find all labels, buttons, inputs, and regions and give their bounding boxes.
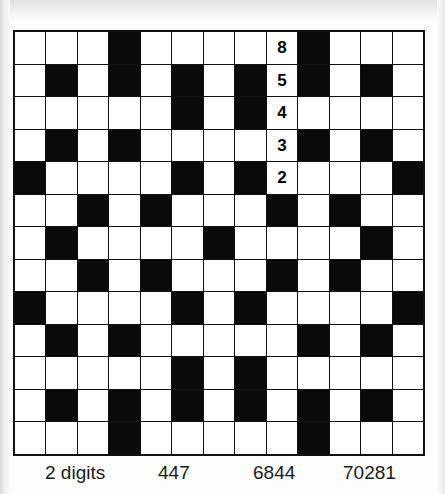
grid-cell[interactable] [15,130,45,162]
grid-cell[interactable] [235,325,265,357]
grid-cell[interactable] [78,32,108,64]
grid-cell[interactable] [109,292,139,324]
grid-cell[interactable] [46,97,76,129]
grid-cell[interactable] [330,292,360,324]
grid-cell[interactable] [330,390,360,422]
grid-cell[interactable] [15,390,45,422]
grid-cell[interactable] [172,260,202,292]
grid-cell[interactable] [141,162,171,194]
grid-cell[interactable]: 4 [267,97,297,129]
grid-cell[interactable] [109,162,139,194]
grid-cell[interactable] [267,227,297,259]
grid-cell[interactable] [109,195,139,227]
grid-cell[interactable] [330,32,360,64]
grid-cell[interactable] [204,130,234,162]
grid-cell[interactable] [393,195,423,227]
grid-cell[interactable] [330,325,360,357]
grid-cell[interactable] [109,227,139,259]
grid-cell[interactable] [235,422,265,454]
grid-cell[interactable] [361,260,391,292]
grid-cell[interactable] [204,162,234,194]
grid-cell[interactable] [109,260,139,292]
grid-cell[interactable] [78,97,108,129]
grid-cell[interactable] [141,32,171,64]
grid-cell[interactable] [235,32,265,64]
grid-cell[interactable] [298,97,328,129]
grid-cell[interactable] [15,260,45,292]
grid-cell[interactable] [172,195,202,227]
grid-cell[interactable] [393,32,423,64]
grid-cell[interactable] [267,325,297,357]
grid-cell[interactable] [172,422,202,454]
grid-cell[interactable] [330,65,360,97]
grid-cell[interactable]: 2 [267,162,297,194]
grid-cell[interactable] [393,130,423,162]
grid-cell[interactable] [330,162,360,194]
grid-cell[interactable] [393,390,423,422]
grid-cell[interactable] [298,227,328,259]
grid-cell[interactable] [46,422,76,454]
grid-cell[interactable] [46,162,76,194]
grid-cell[interactable] [204,32,234,64]
grid-cell[interactable] [78,292,108,324]
grid-cell[interactable] [15,422,45,454]
grid-cell[interactable] [141,325,171,357]
grid-cell[interactable] [172,325,202,357]
grid-cell[interactable] [172,32,202,64]
grid-cell[interactable] [267,390,297,422]
grid-cell[interactable] [141,130,171,162]
grid-cell[interactable] [15,65,45,97]
grid-cell[interactable]: 5 [267,65,297,97]
grid-cell[interactable]: 3 [267,130,297,162]
grid-cell[interactable] [330,130,360,162]
grid-cell[interactable] [15,227,45,259]
grid-cell[interactable] [46,32,76,64]
grid-cell[interactable] [15,32,45,64]
grid-cell[interactable] [78,162,108,194]
grid-cell[interactable] [78,65,108,97]
grid-cell[interactable] [298,292,328,324]
grid-cell[interactable] [141,292,171,324]
grid-cell[interactable] [204,325,234,357]
grid-cell[interactable] [204,195,234,227]
grid-cell[interactable] [78,227,108,259]
grid-cell[interactable] [235,195,265,227]
grid-cell[interactable] [298,195,328,227]
grid-cell[interactable] [298,162,328,194]
grid-cell[interactable] [393,422,423,454]
grid-cell[interactable] [361,162,391,194]
grid-cell[interactable] [78,130,108,162]
grid-cell[interactable] [78,325,108,357]
grid-cell[interactable] [330,227,360,259]
grid-cell[interactable] [361,195,391,227]
grid-cell[interactable] [78,390,108,422]
grid-cell[interactable] [393,65,423,97]
grid-cell[interactable] [361,292,391,324]
grid-cell[interactable]: 8 [267,32,297,64]
grid-cell[interactable] [330,422,360,454]
grid-cell[interactable] [141,65,171,97]
grid-cell[interactable] [46,357,76,389]
grid-cell[interactable] [204,97,234,129]
grid-cell[interactable] [172,227,202,259]
grid-cell[interactable] [393,227,423,259]
grid-cell[interactable] [46,292,76,324]
grid-cell[interactable] [15,97,45,129]
grid-cell[interactable] [298,357,328,389]
grid-cell[interactable] [267,422,297,454]
grid-cell[interactable] [393,357,423,389]
grid-cell[interactable] [204,260,234,292]
grid-cell[interactable] [141,97,171,129]
grid-cell[interactable] [109,97,139,129]
grid-cell[interactable] [15,325,45,357]
grid-cell[interactable] [361,357,391,389]
grid-cell[interactable] [46,195,76,227]
grid-cell[interactable] [393,260,423,292]
grid-cell[interactable] [235,130,265,162]
grid-cell[interactable] [235,260,265,292]
grid-cell[interactable] [204,422,234,454]
grid-cell[interactable] [78,357,108,389]
grid-cell[interactable] [204,65,234,97]
grid-cell[interactable] [172,130,202,162]
grid-cell[interactable] [141,422,171,454]
